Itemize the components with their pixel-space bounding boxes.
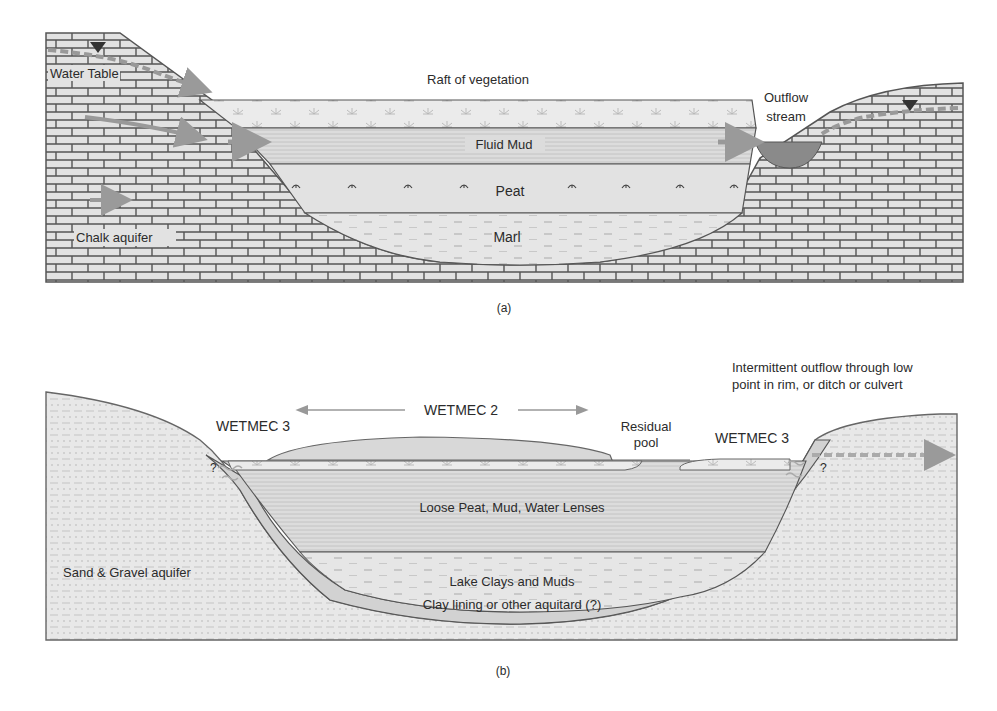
panel-a-caption: (a)	[497, 301, 512, 315]
wetland-cross-section-diagram: Water Table Raft of vegetation Outflow s…	[0, 0, 997, 711]
wetmec2-label: WETMEC 2	[424, 402, 498, 418]
water-table-label: Water Table	[50, 66, 119, 81]
residual-pool-label-line1: Residual	[621, 419, 672, 434]
sand-gravel-aquifer-label: Sand & Gravel aquifer	[63, 565, 192, 580]
outflow-label-line1: Outflow	[764, 90, 809, 105]
panel-a: Water Table Raft of vegetation Outflow s…	[46, 33, 963, 315]
residual-pool-label-line2: pool	[634, 435, 659, 450]
wetmec2-dome	[268, 437, 612, 460]
chalk-aquifer-label: Chalk aquifer	[76, 230, 153, 245]
raft-label: Raft of vegetation	[427, 72, 529, 87]
intermittent-outflow-label-line2: point in rim, or ditch or culvert	[732, 377, 903, 392]
wetmec3-right-label: WETMEC 3	[715, 430, 789, 446]
lake-clays-label: Lake Clays and Muds	[449, 574, 575, 589]
question-mark-right: ?	[820, 461, 827, 475]
intermittent-outflow-label-line1: Intermittent outflow through low	[732, 360, 913, 375]
wetmec3-left-label: WETMEC 3	[216, 418, 290, 434]
question-mark-left: ?	[210, 461, 217, 475]
outflow-label-line2: stream	[766, 109, 806, 124]
clay-lining-label: Clay lining or other aquitard (?)	[423, 597, 601, 612]
vegetation-mat-right	[680, 459, 790, 470]
loose-peat-label: Loose Peat, Mud, Water Lenses	[419, 500, 605, 515]
raft-of-vegetation-layer	[200, 100, 756, 128]
panel-b: Intermittent outflow through low point i…	[46, 360, 957, 678]
vegetation-mat-left	[228, 461, 642, 470]
marl-label: Marl	[493, 229, 520, 245]
peat-label: Peat	[496, 183, 525, 199]
panel-b-caption: (b)	[496, 664, 511, 678]
fluid-mud-label: Fluid Mud	[475, 137, 532, 152]
